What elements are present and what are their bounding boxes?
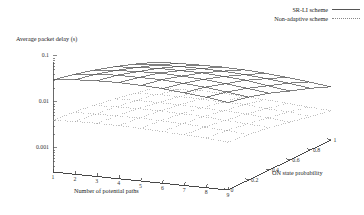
y-tick-0: 0 <box>231 188 234 194</box>
y-tick-1: 1 <box>334 138 337 144</box>
x-tick-6: 6 <box>161 186 164 192</box>
x-tick-7: 7 <box>183 188 186 194</box>
x-tick-2: 2 <box>73 177 76 183</box>
x-tick-5: 5 <box>139 184 142 190</box>
x-tick-9: 9 <box>227 193 230 199</box>
y-tick-0.8: 0.8 <box>313 148 320 154</box>
y-tick-0.2: 0.2 <box>251 178 258 184</box>
x-tick-8: 8 <box>205 190 208 196</box>
plot-canvas <box>0 0 364 215</box>
z-tick-0.001: 0.001 <box>36 145 49 151</box>
chart-figure: SR-LI scheme Non-adaptive scheme Average… <box>0 0 364 215</box>
y-tick-0.4: 0.4 <box>272 168 279 174</box>
x-tick-4: 4 <box>117 181 120 187</box>
x-tick-3: 3 <box>95 179 98 185</box>
z-tick-0.01: 0.01 <box>39 99 49 105</box>
y-tick-0.6: 0.6 <box>292 158 299 164</box>
surface-sr-li-scheme <box>53 62 331 102</box>
z-tick-0.1: 0.1 <box>42 53 49 59</box>
surface-non-adaptive-scheme <box>53 87 331 142</box>
x-tick-1: 1 <box>52 175 55 181</box>
